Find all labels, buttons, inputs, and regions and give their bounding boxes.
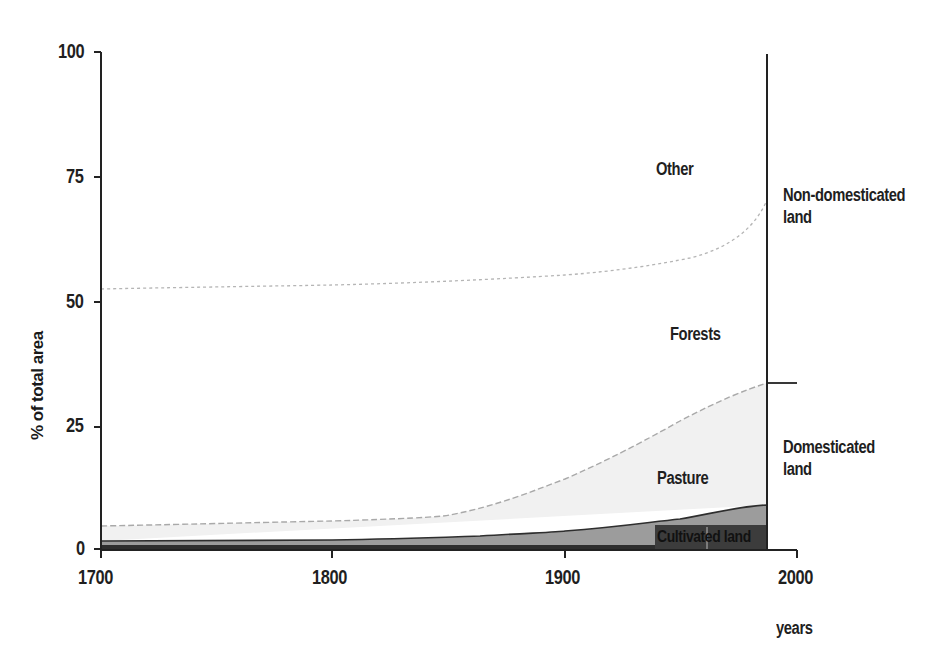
y-tick-25: 25 xyxy=(66,414,83,437)
label-domesticated: Domesticated land xyxy=(783,436,875,480)
label-domesticated-line1: Domesticated xyxy=(783,436,875,458)
x-axis-label: years xyxy=(776,618,813,639)
y-tick-50: 50 xyxy=(66,290,83,313)
x-tick-1800: 1800 xyxy=(312,566,347,589)
y-axis-label: % of total area xyxy=(28,331,48,440)
forests-boundary-line xyxy=(101,200,767,289)
label-pasture: Pasture xyxy=(657,468,708,489)
x-tick-1700: 1700 xyxy=(78,566,113,589)
label-other: Other xyxy=(656,159,693,180)
label-non-domesticated-line2: land xyxy=(783,206,905,228)
x-tick-1900: 1900 xyxy=(545,566,580,589)
label-domesticated-line2: land xyxy=(783,458,875,480)
x-tick-2000: 2000 xyxy=(778,566,813,589)
y-tick-0: 0 xyxy=(76,537,85,560)
label-forests: Forests xyxy=(670,324,720,345)
pasture-area xyxy=(101,383,767,541)
label-non-domesticated: Non-domesticated land xyxy=(783,184,905,228)
label-non-domesticated-line1: Non-domesticated xyxy=(783,184,905,206)
y-tick-75: 75 xyxy=(66,165,83,188)
y-tick-100: 100 xyxy=(58,40,84,63)
label-cultivated-land: Cultivated land xyxy=(657,527,751,547)
